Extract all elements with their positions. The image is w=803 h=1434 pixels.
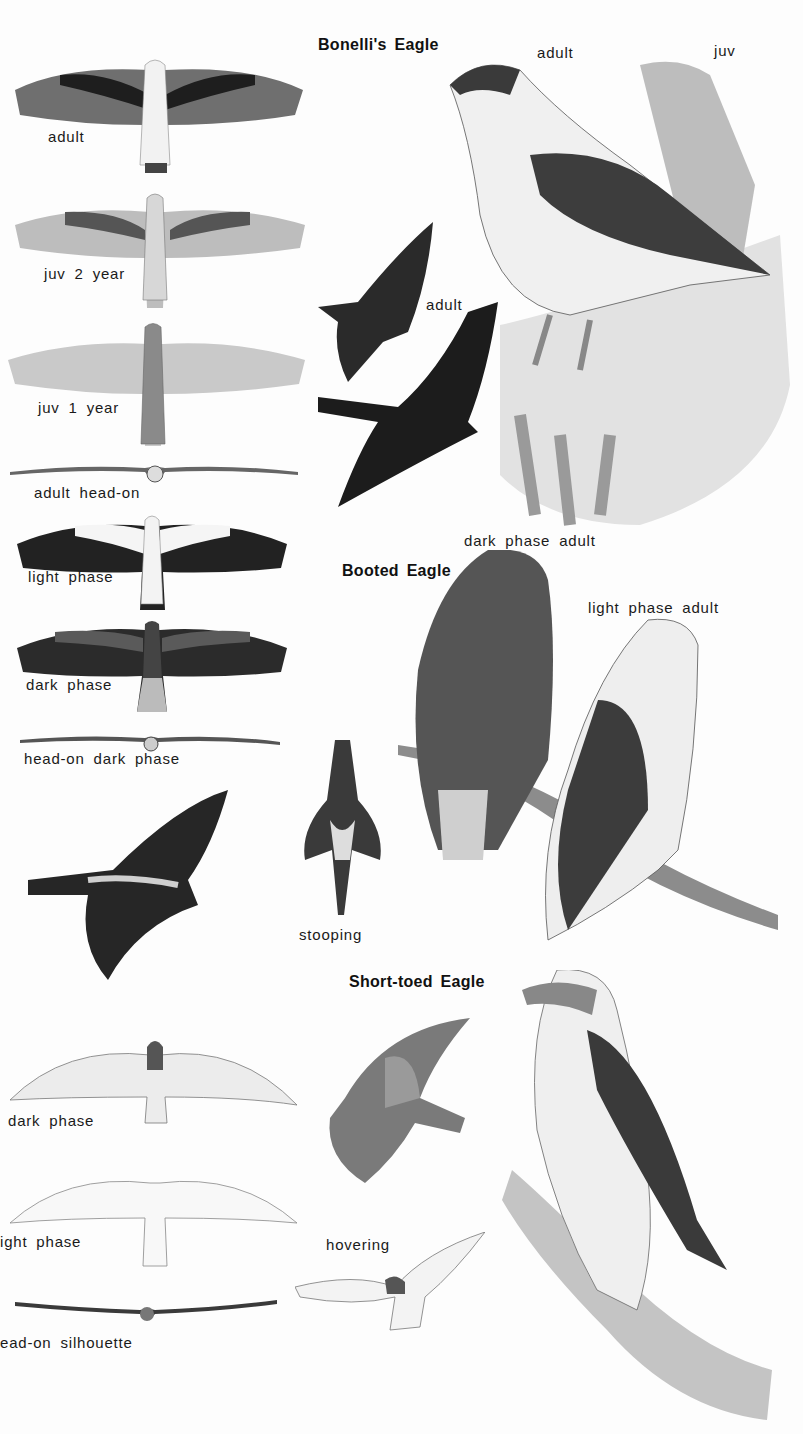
label-bonellis-juv-1-year: juv 1 year — [38, 399, 119, 416]
label-short-toed-dark-phase: dark phase — [8, 1112, 94, 1129]
label-bonellis-adult: adult — [48, 128, 85, 145]
label-bonellis-juv-2-year: juv 2 year — [44, 265, 125, 282]
bonellis-flying-adults-illustration — [318, 222, 498, 512]
booted-dark-phase-flight-illustration — [15, 620, 290, 715]
short-toed-perched-illustration — [497, 970, 777, 1430]
booted-stooping-illustration — [300, 740, 385, 920]
bonellis-juv2-flight-illustration — [5, 190, 310, 310]
label-short-toed-head-on-silhouette: ead-on silhouette — [0, 1334, 133, 1351]
species-title-bonellis-eagle: Bonelli's Eagle — [318, 36, 439, 54]
label-booted-light-phase: light phase — [28, 568, 113, 585]
bonellis-adult-flight-illustration — [5, 55, 310, 175]
bonellis-juv1-flight-illustration — [3, 322, 308, 450]
label-short-toed-light-phase: ight phase — [0, 1233, 81, 1250]
species-title-short-toed-eagle: Short-toed Eagle — [349, 973, 485, 991]
booted-banking-flight-illustration — [28, 785, 233, 985]
booted-light-phase-flight-illustration — [15, 512, 290, 612]
short-toed-gliding-illustration — [325, 1018, 475, 1183]
label-booted-head-on-dark-phase: head-on dark phase — [24, 750, 180, 767]
short-toed-light-phase-flight-illustration — [5, 1168, 300, 1268]
label-booted-dark-phase-adult: dark phase adult — [464, 532, 596, 549]
label-bonellis-adult-head-on: adult head-on — [34, 484, 140, 501]
short-toed-hovering-illustration — [295, 1232, 485, 1332]
short-toed-head-on-illustration — [15, 1296, 280, 1326]
label-booted-stooping: stooping — [299, 926, 362, 943]
label-booted-dark-phase: dark phase — [26, 676, 112, 693]
booted-perched-pair-illustration — [398, 550, 783, 945]
